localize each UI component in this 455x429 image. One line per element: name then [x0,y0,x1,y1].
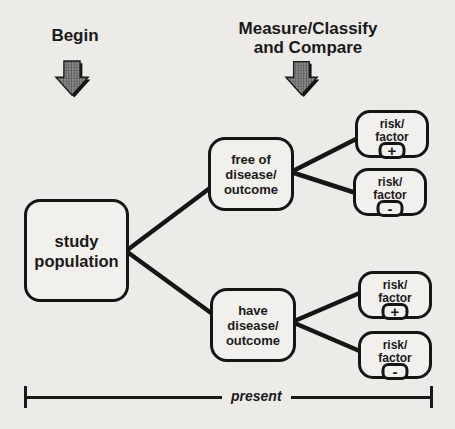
edge-free-to-risk-positive [291,137,360,172]
minus-sign: - [388,201,393,216]
node-label-line: outcome [226,333,280,348]
minus-badge: - [377,200,404,217]
node-label-line: disease/ [225,167,276,182]
measure-stage-label: Measure/Classify and Compare [224,19,392,57]
edge-study-to-have [126,251,218,318]
node-label-line: risk/ [383,279,408,292]
timeline-right-tick [430,386,433,408]
node-label-line: free of [231,152,271,167]
diagram-canvas: Begin Measure/Classify and Compare study… [0,0,455,429]
minus-sign: - [393,364,398,379]
measure-stage-line2: and Compare [254,38,363,57]
begin-stage-label: Begin [40,26,110,46]
edge-have-to-risk-positive [292,292,362,322]
down-arrow-icon [54,60,90,98]
edge-study-to-free [126,185,214,251]
node-label-line: risk/ [380,118,405,131]
plus-badge: + [382,303,409,320]
minus-badge: - [382,363,409,380]
node-label-line: study [54,231,98,251]
measure-stage-line1: Measure/Classify [239,19,378,38]
node-have-disease-outcome: have disease/ outcome [210,288,296,362]
plus-sign: + [391,304,400,319]
node-label-line: population [34,251,118,271]
edge-have-to-risk-negative [292,322,362,352]
node-risk-factor-positive-top: risk/ factor + [355,110,429,158]
node-label-line: disease/ [227,318,278,333]
timeline-label: present [222,388,291,404]
timeline-left-tick [24,386,27,408]
node-risk-factor-negative-bottom: risk/ factor - [358,331,432,379]
down-arrow-icon [284,61,319,97]
plus-badge: + [379,142,406,159]
node-label-line: risk/ [383,339,408,352]
plus-sign: + [388,143,397,158]
node-study-population: study population [24,199,129,302]
node-risk-factor-positive-bottom: risk/ factor + [358,271,432,319]
node-label-line: outcome [224,182,278,197]
node-risk-factor-negative-top: risk/ factor - [353,168,427,216]
node-free-of-disease-outcome: free of disease/ outcome [208,137,294,211]
node-label-line: risk/ [378,176,403,189]
edge-free-to-risk-negative [291,172,359,194]
node-label-line: have [238,303,268,318]
